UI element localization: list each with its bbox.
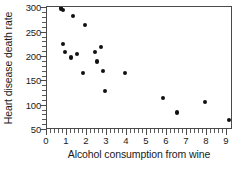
x-axis-minor-tick — [90, 129, 91, 133]
data-point — [103, 89, 107, 93]
x-axis-minor-tick — [50, 129, 51, 133]
y-axis-minor-tick — [42, 17, 46, 18]
y-axis-minor-tick — [42, 90, 46, 91]
x-axis-minor-tick — [218, 129, 219, 133]
y-axis-minor-tick — [42, 85, 46, 86]
x-axis-minor-tick — [198, 129, 199, 133]
data-point — [175, 110, 179, 114]
x-axis-minor-tick — [122, 129, 123, 133]
x-axis-tick-label: 2 — [83, 135, 88, 146]
x-axis-minor-tick — [202, 129, 203, 133]
x-axis-minor-tick — [114, 129, 115, 133]
plot-area — [46, 6, 232, 129]
data-point — [71, 14, 75, 18]
y-axis-tick-labels: 50100150200250300 — [16, 0, 42, 136]
y-axis-minor-tick — [42, 22, 46, 23]
y-axis-minor-tick — [42, 41, 46, 42]
y-axis-minor-tick — [42, 12, 46, 13]
x-axis-minor-tick — [138, 129, 139, 133]
data-point — [61, 42, 65, 46]
x-axis-minor-tick — [130, 129, 131, 133]
x-axis-minor-tick — [54, 129, 55, 133]
x-axis-minor-tick — [134, 129, 135, 133]
x-axis-minor-tick — [154, 129, 155, 133]
y-axis-tick-label: 150 — [26, 75, 41, 86]
y-axis-minor-tick — [42, 71, 46, 72]
y-axis-minor-tick — [42, 46, 46, 47]
data-point — [61, 8, 65, 12]
x-axis-tick-label: 0 — [43, 135, 48, 146]
y-axis-tick-label: 100 — [26, 99, 41, 110]
data-point — [95, 59, 99, 63]
x-axis-title: Alcohol consumption from wine — [46, 148, 232, 160]
x-axis-tick-label: 3 — [103, 135, 108, 146]
y-axis-tick-label: 200 — [26, 51, 41, 62]
x-axis-minor-tick — [214, 129, 215, 133]
y-axis-minor-tick — [42, 37, 46, 38]
y-axis-tick — [40, 80, 46, 81]
x-axis-minor-tick — [58, 129, 59, 133]
x-axis-minor-tick — [174, 129, 175, 133]
y-axis-minor-tick — [42, 124, 46, 125]
y-axis-tick — [40, 56, 46, 57]
x-axis-tick-label: 9 — [223, 135, 228, 146]
data-point — [99, 45, 103, 49]
data-point — [69, 55, 73, 59]
y-axis-minor-tick — [42, 119, 46, 120]
y-axis-title: Heart disease death rate — [0, 0, 16, 136]
x-axis-minor-tick — [82, 129, 83, 133]
x-axis-minor-tick — [94, 129, 95, 133]
x-axis-minor-tick — [142, 129, 143, 133]
x-axis-minor-tick — [162, 129, 163, 133]
data-point — [101, 69, 105, 73]
x-axis-minor-tick — [110, 129, 111, 133]
x-axis-minor-tick — [222, 129, 223, 133]
x-axis-minor-tick — [190, 129, 191, 133]
data-point — [203, 100, 207, 104]
x-axis-tick-label: 1 — [63, 135, 68, 146]
y-axis-minor-tick — [42, 61, 46, 62]
x-axis-tick-label: 8 — [203, 135, 208, 146]
data-point — [93, 50, 97, 54]
x-axis-minor-tick — [78, 129, 79, 133]
x-axis-minor-tick — [62, 129, 63, 133]
y-axis-minor-tick — [42, 114, 46, 115]
data-point — [63, 50, 67, 54]
x-axis-minor-tick — [150, 129, 151, 133]
x-axis-minor-tick — [158, 129, 159, 133]
y-axis-minor-tick — [42, 76, 46, 77]
y-axis-tick — [40, 105, 46, 106]
y-axis-minor-tick — [42, 100, 46, 101]
data-point — [81, 71, 85, 75]
x-axis-minor-tick — [194, 129, 195, 133]
y-axis-tick-label: 250 — [26, 26, 41, 37]
x-axis-tick-label: 5 — [143, 135, 148, 146]
y-axis-tick — [40, 32, 46, 33]
x-axis-minor-tick — [74, 129, 75, 133]
y-axis-tick — [40, 7, 46, 8]
data-point — [227, 118, 231, 122]
y-axis-tick-label: 300 — [26, 2, 41, 13]
x-axis-minor-tick — [118, 129, 119, 133]
x-axis-minor-tick — [70, 129, 71, 133]
x-axis-minor-tick — [178, 129, 179, 133]
x-axis-minor-tick — [98, 129, 99, 133]
data-point — [161, 96, 165, 100]
x-axis-minor-tick — [210, 129, 211, 133]
x-axis-minor-tick — [102, 129, 103, 133]
scatter-plot-figure: Heart disease death rate 501001502002503… — [0, 0, 244, 169]
x-axis-minor-tick — [170, 129, 171, 133]
data-point — [123, 71, 127, 75]
y-axis-minor-tick — [42, 66, 46, 67]
y-axis-minor-tick — [42, 27, 46, 28]
y-axis-minor-tick — [42, 110, 46, 111]
x-axis-tick-label: 4 — [123, 135, 128, 146]
y-axis-minor-tick — [42, 95, 46, 96]
y-axis-title-text: Heart disease death rate — [2, 12, 14, 125]
x-axis-minor-tick — [182, 129, 183, 133]
data-point — [83, 23, 87, 27]
data-point — [75, 52, 79, 56]
x-axis-tick-label: 6 — [163, 135, 168, 146]
y-axis-minor-tick — [42, 51, 46, 52]
x-axis-tick-label: 7 — [183, 135, 188, 146]
